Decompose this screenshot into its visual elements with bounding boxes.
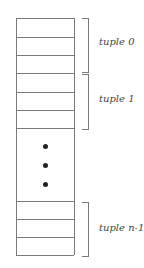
ellipsis-dot bbox=[43, 163, 48, 168]
row-divider bbox=[16, 37, 74, 38]
row-divider bbox=[16, 237, 74, 238]
tuple-layout-diagram: tuple 0 tuple 1 tuple n-1 bbox=[0, 0, 144, 268]
row-divider bbox=[16, 255, 74, 256]
ellipsis-dot bbox=[43, 144, 48, 149]
tuple-1-bracket bbox=[82, 74, 89, 130]
row-divider bbox=[16, 55, 74, 56]
tuple-1-label: tuple 1 bbox=[99, 93, 135, 105]
row-divider bbox=[16, 18, 74, 19]
tuple-0-label: tuple 0 bbox=[99, 36, 135, 48]
row-divider bbox=[16, 219, 74, 220]
tuple-n-1-bracket bbox=[82, 202, 89, 257]
row-divider bbox=[16, 73, 74, 74]
row-divider bbox=[16, 201, 74, 202]
ellipsis-dot bbox=[43, 182, 48, 187]
row-divider bbox=[16, 128, 74, 129]
row-divider bbox=[16, 110, 74, 111]
row-divider bbox=[16, 92, 74, 93]
tuple-0-bracket bbox=[82, 18, 89, 73]
tuple-n-1-label: tuple n-1 bbox=[99, 222, 144, 234]
box-right-edge bbox=[74, 18, 75, 255]
